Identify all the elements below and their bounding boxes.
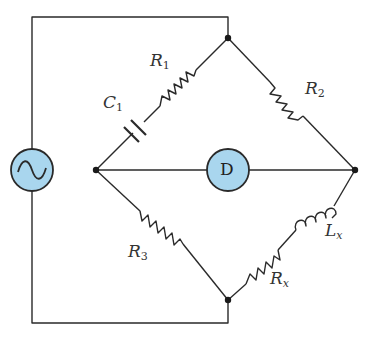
- node-bottom: [225, 297, 231, 303]
- r3-label: R3: [128, 243, 148, 262]
- r2-resistor: [270, 82, 303, 120]
- lx-label: Lx: [325, 222, 343, 241]
- circuit-drawing: [0, 0, 369, 343]
- c1-label: C1: [103, 94, 123, 113]
- r1-label: R1: [150, 52, 170, 71]
- r1-resistor: [160, 70, 196, 106]
- bridge-circuit-diagram: D R1 C1 R2 R3 Rx Lx: [0, 0, 369, 343]
- rx-label: Rx: [270, 270, 289, 289]
- node-right: [352, 167, 358, 173]
- node-left: [93, 167, 99, 173]
- node-top: [225, 35, 231, 41]
- r2-label: R2: [305, 80, 325, 99]
- top-wire: [32, 17, 228, 149]
- c1-plate-b: [131, 120, 146, 135]
- detector-label: D: [220, 161, 234, 178]
- r3-resistor: [140, 211, 183, 245]
